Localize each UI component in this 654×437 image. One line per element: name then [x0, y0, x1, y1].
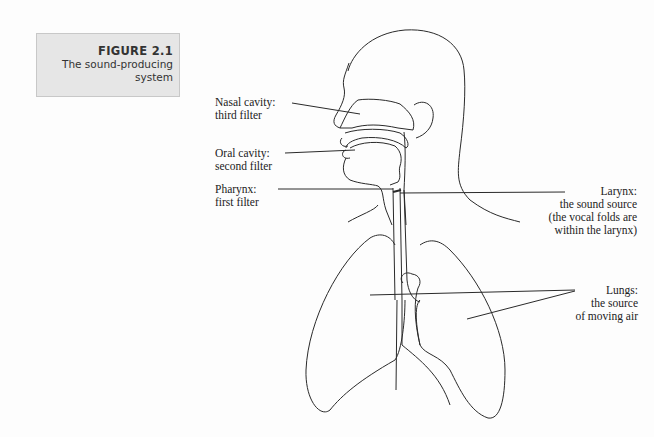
nasal-cavity — [340, 99, 414, 130]
lungs-leader-left — [370, 290, 575, 295]
larynx-label-line4: within the larynx) — [549, 224, 637, 237]
pharynx-label: Pharynx: first filter — [215, 183, 259, 209]
nasal-label-line2: third filter — [215, 109, 275, 122]
right-lung — [416, 241, 505, 418]
larynx-label: Larynx: the sound source (the vocal fold… — [549, 185, 637, 237]
lungs-label: Lungs: the source of moving air — [575, 284, 638, 323]
face-profile — [334, 63, 349, 128]
pharynx-label-line1: Pharynx: — [215, 183, 259, 196]
trachea-right — [400, 188, 402, 300]
palate — [345, 129, 408, 148]
oral-label-line2: second filter — [215, 160, 272, 173]
oral-label-line1: Oral cavity: — [215, 147, 272, 160]
oral-leader — [285, 150, 355, 153]
jaw — [348, 205, 378, 222]
pharynx-label-line2: first filter — [215, 196, 259, 209]
nasal-cavity-label: Nasal cavity: third filter — [215, 96, 275, 122]
larynx-leader — [400, 192, 565, 193]
ear — [414, 102, 433, 138]
larynx-label-line2: the sound source — [549, 198, 637, 211]
larynx-label-line3: (the vocal folds are — [549, 211, 637, 224]
larynx-label-line1: Larynx: — [549, 185, 637, 198]
oral-cavity-label: Oral cavity: second filter — [215, 147, 272, 173]
esophagus — [404, 190, 420, 302]
lungs-label-line3: of moving air — [575, 310, 638, 323]
lips — [340, 138, 350, 158]
tongue — [350, 142, 401, 185]
heart-region — [401, 273, 420, 345]
chin — [343, 158, 392, 225]
lungs-label-line2: the source — [575, 297, 638, 310]
nasal-label-line1: Nasal cavity: — [215, 96, 275, 109]
left-lung — [306, 235, 405, 412]
lungs-label-line1: Lungs: — [575, 284, 638, 297]
